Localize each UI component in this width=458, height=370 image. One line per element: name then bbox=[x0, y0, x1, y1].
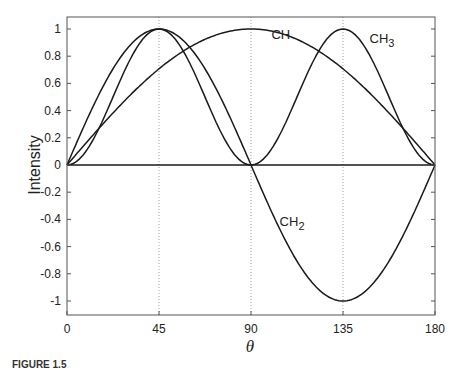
y-tick-label: 0.8 bbox=[44, 49, 61, 63]
figure-caption: FIGURE 1.5 bbox=[12, 359, 66, 370]
x-tick-label: 90 bbox=[244, 322, 258, 336]
y-tick-label: 0.6 bbox=[44, 76, 61, 90]
y-tick-label: 0.2 bbox=[44, 131, 61, 145]
x-tick-label: 180 bbox=[425, 322, 445, 336]
curve-ch bbox=[67, 29, 435, 165]
x-tick-label: 0 bbox=[64, 322, 71, 336]
y-tick-label: -0.6 bbox=[40, 240, 61, 254]
series-label-ch: CH bbox=[271, 27, 290, 42]
curve-ch3 bbox=[67, 29, 435, 165]
series-label-ch2: CH2 bbox=[280, 214, 305, 232]
x-axis-title: θ bbox=[246, 337, 254, 356]
series-label-ch3: CH3 bbox=[370, 31, 395, 49]
y-axis-title: Intensity bbox=[26, 135, 43, 195]
y-tick-label: -0.2 bbox=[40, 185, 61, 199]
y-tick-label: 1 bbox=[54, 22, 61, 36]
y-tick-label: -0.8 bbox=[40, 267, 61, 281]
y-tick-label: -0.4 bbox=[40, 212, 61, 226]
y-tick-label: 0.4 bbox=[44, 104, 61, 118]
series-labels: CHCH3CH2 bbox=[271, 27, 394, 233]
x-tick-label: 45 bbox=[152, 322, 166, 336]
x-tick-label: 135 bbox=[333, 322, 353, 336]
y-tick-label: 0 bbox=[54, 158, 61, 172]
y-tick-label: -1 bbox=[50, 294, 61, 308]
